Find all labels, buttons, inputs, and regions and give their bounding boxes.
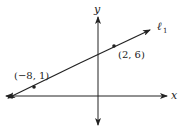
y-axis-label: y bbox=[93, 3, 101, 16]
coordinate-plane: y x ℓ 1 (2, 6) (−8, 1) bbox=[0, 0, 180, 127]
line-label: ℓ bbox=[157, 20, 162, 33]
line-label-sub: 1 bbox=[163, 27, 167, 35]
point-2-6 bbox=[112, 44, 116, 48]
point-neg8-1 bbox=[32, 85, 36, 89]
point-label-neg8-1: (−8, 1) bbox=[14, 70, 49, 81]
point-label-2-6: (2, 6) bbox=[118, 49, 145, 60]
x-axis-label: x bbox=[171, 89, 178, 102]
